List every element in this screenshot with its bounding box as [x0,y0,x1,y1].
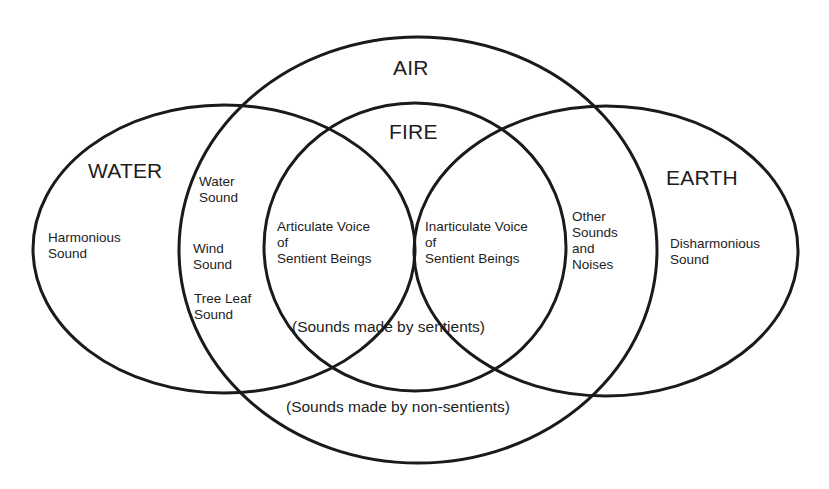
harmonious-sound-label: Harmonious Sound [48,230,121,262]
water-title: WATER [88,159,163,183]
non-sentients-caption: (Sounds made by non-sentients) [286,398,510,416]
fire-title: FIRE [389,120,438,144]
disharmonious-sound-label: Disharmonious Sound [670,236,760,268]
earth-title: EARTH [666,166,738,190]
other-sounds-label: Other Sounds and Noises [572,209,618,273]
inarticulate-voice-label: Inarticulate Voice of Sentient Beings [425,219,528,267]
water-sound-label: Water Sound [199,174,238,206]
sentients-caption: (Sounds made by sentients) [292,318,485,336]
tree-leaf-sound-label: Tree Leaf Sound [194,291,251,323]
wind-sound-label: Wind Sound [193,241,232,273]
air-title: AIR [393,56,429,80]
articulate-voice-label: Articulate Voice of Sentient Beings [277,219,372,267]
